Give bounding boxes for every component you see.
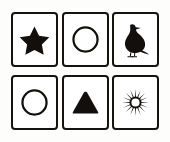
card-grid [11, 12, 159, 130]
circle-outline-icon [13, 77, 56, 128]
bird-icon [114, 14, 157, 65]
sunburst-icon [114, 77, 157, 128]
circle-outline-icon [64, 14, 107, 65]
card-triangle[interactable] [62, 75, 109, 130]
triangle-icon [64, 77, 107, 128]
card-circle-bottom[interactable] [11, 75, 58, 130]
card-bird[interactable] [112, 12, 159, 67]
card-circle-top[interactable] [62, 12, 109, 67]
card-sunburst[interactable] [112, 75, 159, 130]
card-star[interactable] [11, 12, 58, 67]
star-icon [13, 14, 56, 65]
card-board [0, 0, 170, 142]
